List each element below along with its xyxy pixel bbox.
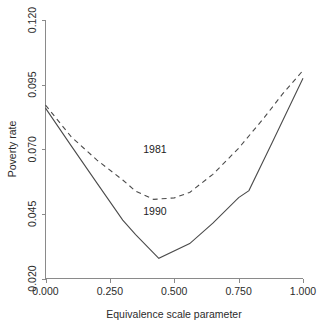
y-axis-ticks <box>42 21 46 280</box>
series-annotations: 19811990 <box>143 143 167 217</box>
y-tick-label: 0.120 <box>26 7 38 33</box>
series-annotation-1990: 1990 <box>143 205 167 217</box>
x-axis-tick-labels: 0.0000.2500.5000.7501.000 <box>32 285 316 297</box>
series-line-1990 <box>46 78 304 258</box>
plot-canvas: 0.0200.0450.0700.0950.120 Poverty rate 0… <box>0 0 326 327</box>
y-tick-label: 0.095 <box>26 71 38 97</box>
x-axis: 0.0000.2500.5000.7501.000 Equivalence sc… <box>32 279 316 321</box>
y-tick-label: 0.070 <box>26 136 38 162</box>
x-axis-ticks <box>47 279 304 283</box>
y-axis: 0.0200.0450.0700.0950.120 Poverty rate <box>6 7 46 292</box>
x-tick-label: 0.500 <box>161 285 187 297</box>
x-axis-title: Equivalence scale parameter <box>106 308 242 320</box>
x-tick-label: 0.750 <box>225 285 251 297</box>
y-axis-title: Poverty rate <box>6 121 18 178</box>
series-line-1981 <box>46 70 304 199</box>
chart-screenshot: 0.0200.0450.0700.0950.120 Poverty rate 0… <box>0 0 326 327</box>
series-annotation-1981: 1981 <box>143 143 167 155</box>
y-axis-tick-labels: 0.0200.0450.0700.0950.120 <box>26 7 38 292</box>
x-tick-label: 0.000 <box>32 285 58 297</box>
x-tick-label: 0.250 <box>97 285 123 297</box>
data-series-group <box>46 70 304 258</box>
poverty-rate-figure: 0.0200.0450.0700.0950.120 Poverty rate 0… <box>0 0 326 327</box>
y-tick-label: 0.045 <box>26 201 38 227</box>
x-tick-label: 1.000 <box>290 285 316 297</box>
